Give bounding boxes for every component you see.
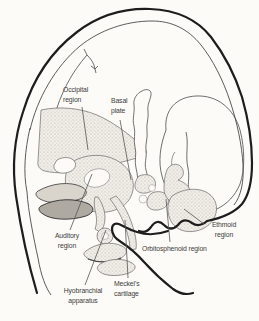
chondrocranium-illustration: [0, 0, 259, 321]
label-ethmoid-region: Ethmoid region: [203, 220, 245, 239]
label-basal-plate: Basal plate: [111, 96, 137, 115]
label-auditory-region: Auditory region: [49, 231, 85, 250]
chondrocranium-diagram: Occipital region Basal plate Auditory re…: [0, 0, 259, 321]
label-occipital-region: Occipital region: [63, 85, 97, 104]
label-meckels-cartilage: Meckel's cartilage: [114, 279, 148, 298]
label-hyobranchial-apparatus: Hyobranchial apparatus: [56, 286, 110, 305]
label-orbitosphenoid-region: Orbitosphenoid region: [142, 244, 214, 254]
